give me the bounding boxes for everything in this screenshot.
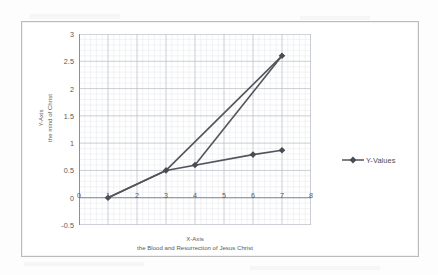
chart-page: Y-Axis the mind of Christ 3 2.5 2 1.5 1 … xyxy=(0,0,438,275)
x-axis-title-line1: X-Axis xyxy=(79,234,311,243)
y-tick-label: 2.5 xyxy=(50,57,74,66)
x-tick-label: 6 xyxy=(251,191,255,200)
y-tick-label: 1 xyxy=(54,139,74,148)
y-axis-title-line1: Y-Axis xyxy=(37,94,46,142)
y-tick-label: 3 xyxy=(54,30,74,39)
y-tick-label: 0 xyxy=(54,193,74,202)
legend-marker-icon xyxy=(342,155,364,165)
x-tick-label: 7 xyxy=(280,191,284,200)
x-tick-label: 1 xyxy=(106,191,110,200)
y-tick-label: 0.5 xyxy=(50,166,74,175)
x-axis-title: X-Axis the Blood and Resurrection of Jes… xyxy=(79,234,311,252)
x-axis-title-line2: the Blood and Resurrection of Jesus Chri… xyxy=(79,243,311,252)
y-tick-label: 1.5 xyxy=(50,111,74,120)
legend-label: Y-Values xyxy=(366,156,396,165)
x-tick-label: 0 xyxy=(77,191,81,200)
marker-point-5 xyxy=(279,147,286,154)
x-tick-label: 4 xyxy=(193,191,197,200)
y-tick-label: 2 xyxy=(54,84,74,93)
y-tick-label: -0.5 xyxy=(48,221,74,230)
marker-point-4 xyxy=(250,151,257,158)
x-tick-label: 3 xyxy=(164,191,168,200)
x-tick-label: 8 xyxy=(309,191,313,200)
chart-legend: Y-Values xyxy=(342,155,396,165)
x-tick-label: 2 xyxy=(135,191,139,200)
x-tick-label: 5 xyxy=(222,191,226,200)
chart-frame: Y-Axis the mind of Christ 3 2.5 2 1.5 1 … xyxy=(21,21,419,257)
